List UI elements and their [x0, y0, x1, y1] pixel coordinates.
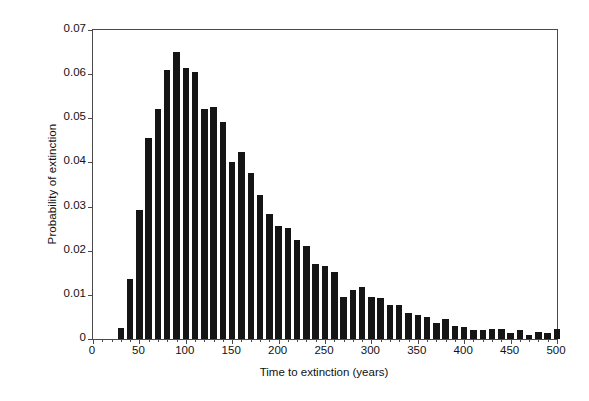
x-tick-mark-minor: [241, 339, 242, 342]
y-tick-mark: [88, 118, 93, 119]
bar: [331, 272, 337, 339]
bar: [368, 297, 374, 339]
bar: [238, 152, 244, 339]
x-tick-label: 50: [118, 343, 158, 357]
x-tick-label: 0: [72, 343, 112, 357]
x-tick-mark-minor: [455, 339, 456, 342]
bar: [415, 315, 421, 339]
bar: [155, 109, 161, 339]
bar: [201, 109, 207, 339]
x-tick-mark-minor: [288, 339, 289, 342]
x-tick-mark-minor: [538, 339, 539, 342]
bar: [303, 246, 309, 339]
bar: [405, 313, 411, 339]
bar: [433, 323, 439, 339]
x-tick-label: 250: [304, 343, 344, 357]
x-tick-mark-minor: [306, 339, 307, 342]
x-tick-mark-minor: [112, 339, 113, 342]
x-tick-mark-minor: [436, 339, 437, 342]
x-tick-mark-minor: [195, 339, 196, 342]
x-tick-label: 150: [211, 343, 251, 357]
x-tick-mark-minor: [492, 339, 493, 342]
bar: [350, 290, 356, 339]
x-tick-mark-minor: [260, 339, 261, 342]
x-axis-title: Time to extinction (years): [92, 366, 556, 378]
y-tick-mark: [88, 251, 93, 252]
x-tick-mark-minor: [316, 339, 317, 342]
y-tick-label: 0.05: [40, 111, 86, 123]
bar: [220, 122, 226, 339]
y-tick-label: 0.01: [40, 288, 86, 300]
x-tick-mark-minor: [520, 339, 521, 342]
bar: [127, 279, 133, 339]
y-tick-mark: [88, 295, 93, 296]
x-tick-label: 200: [258, 343, 298, 357]
x-tick-mark-minor: [130, 339, 131, 342]
bar: [396, 305, 402, 339]
x-tick-mark-minor: [167, 339, 168, 342]
bar: [248, 173, 254, 339]
y-tick-label: 0.04: [40, 155, 86, 167]
bar: [452, 326, 458, 339]
bar: [480, 330, 486, 339]
x-tick-label: 400: [443, 343, 483, 357]
y-tick-label: 0.03: [40, 200, 86, 212]
y-tick-mark: [88, 74, 93, 75]
bar: [442, 319, 448, 339]
bar: [118, 328, 124, 339]
bar: [183, 68, 189, 339]
x-tick-mark-minor: [214, 339, 215, 342]
y-tick-label: 0.06: [40, 67, 86, 79]
x-tick-mark-minor: [473, 339, 474, 342]
x-tick-mark-minor: [353, 339, 354, 342]
x-tick-mark-minor: [121, 339, 122, 342]
plot-area: [92, 29, 558, 340]
bar: [229, 162, 235, 339]
extinction-probability-chart: Probability of extinction 00.010.020.030…: [0, 0, 589, 401]
bar: [387, 305, 393, 339]
y-tick-label: 0.07: [40, 23, 86, 35]
x-tick-mark-minor: [390, 339, 391, 342]
x-tick-label: 300: [350, 343, 390, 357]
x-tick-mark-minor: [427, 339, 428, 342]
bar: [322, 266, 328, 339]
x-tick-mark-minor: [204, 339, 205, 342]
x-tick-label: 500: [536, 343, 576, 357]
bar: [377, 298, 383, 339]
x-tick-mark-minor: [334, 339, 335, 342]
y-tick-label: 0.02: [40, 244, 86, 256]
bar: [340, 297, 346, 339]
x-tick-label: 100: [165, 343, 205, 357]
bar: [498, 329, 504, 339]
x-tick-mark-minor: [102, 339, 103, 342]
bar: [173, 52, 179, 339]
bar: [266, 214, 272, 339]
bar: [424, 317, 430, 340]
x-tick-mark-minor: [297, 339, 298, 342]
x-tick-mark-minor: [483, 339, 484, 342]
bar: [145, 138, 151, 339]
x-tick-mark-minor: [177, 339, 178, 342]
y-tick-mark: [88, 162, 93, 163]
y-axis-tick-labels: 00.010.020.030.040.050.060.07: [38, 0, 86, 401]
x-tick-mark-minor: [158, 339, 159, 342]
x-tick-mark-minor: [362, 339, 363, 342]
bar: [210, 107, 216, 339]
bar: [136, 210, 142, 339]
bar: [294, 240, 300, 339]
x-tick-label: 350: [397, 343, 437, 357]
bar: [470, 330, 476, 339]
x-tick-mark-minor: [223, 339, 224, 342]
y-tick-mark: [88, 30, 93, 31]
bar: [312, 264, 318, 339]
x-tick-mark-minor: [446, 339, 447, 342]
bar: [461, 327, 467, 339]
x-tick-mark-minor: [344, 339, 345, 342]
x-tick-mark-minor: [529, 339, 530, 342]
x-tick-mark-minor: [149, 339, 150, 342]
bar: [257, 195, 263, 339]
bar: [535, 332, 541, 339]
y-tick-mark: [88, 207, 93, 208]
bar: [554, 329, 560, 339]
x-tick-mark-minor: [501, 339, 502, 342]
